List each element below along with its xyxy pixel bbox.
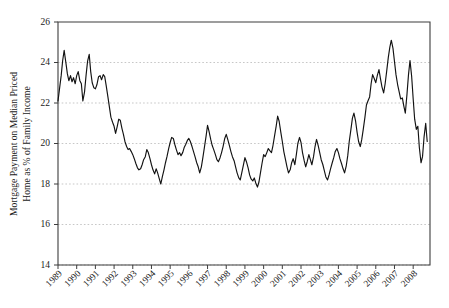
y-tick-label-24: 24 (41, 57, 51, 67)
y-tick-label-18: 18 (41, 179, 51, 189)
y-tick-label-22: 22 (41, 98, 51, 108)
y-tick-label-14: 14 (41, 260, 51, 270)
y-tick-label-16: 16 (41, 219, 51, 229)
y-tick-label-26: 26 (41, 17, 51, 27)
chart-container: 14161820222426 1989199019911992199319941… (0, 0, 449, 308)
chart-background (0, 0, 449, 308)
y-tick-label-20: 20 (41, 138, 51, 148)
y-axis-title-line-2: Home as % of Family Income (21, 86, 32, 201)
line-chart: 14161820222426 1989199019911992199319941… (0, 0, 449, 308)
y-axis-title-line-1: Mortgage Payment on Median Priced (8, 72, 19, 216)
